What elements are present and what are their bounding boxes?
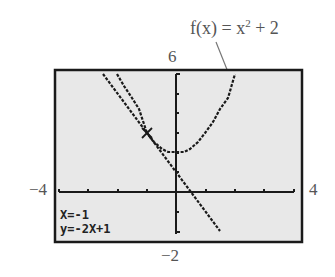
cursor-x-readout: X=-1: [60, 208, 89, 222]
graph-figure: f(x) = x2 + 2 6 −4 4 −2: [0, 0, 335, 277]
screen-frame: [55, 70, 302, 242]
calculator-screen: X=-1 y=-2X+1: [0, 0, 335, 277]
equation-readout: y=-2X+1: [60, 222, 111, 236]
